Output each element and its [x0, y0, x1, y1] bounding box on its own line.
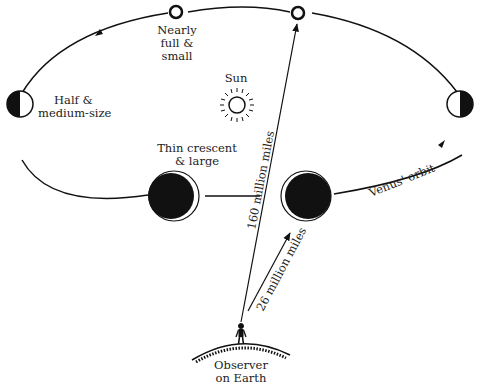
label-half: medium-size [38, 106, 112, 120]
phase-crescent-right-icon [281, 171, 331, 221]
label-crescent: & large [175, 154, 219, 168]
phase-half-right-icon [447, 91, 473, 117]
label-half: Half & [54, 93, 93, 107]
label-observer: on Earth [216, 371, 267, 385]
observer-icon [236, 324, 246, 345]
phase-half-left-icon [7, 91, 33, 117]
venus-phases-diagram: Nearly full & small Sun Half & medium-si… [0, 0, 477, 388]
sun-icon [220, 88, 254, 122]
label-venus-orbit: Venus' orbit [366, 161, 437, 201]
label-nearly-full: Nearly [157, 23, 197, 37]
phase-full-far-icon [292, 7, 304, 19]
label-observer: Observer [214, 358, 268, 372]
phase-nearly-full-left-icon [170, 6, 182, 18]
label-distance-160: 160 million miles [244, 129, 277, 230]
label-nearly-full: small [161, 49, 192, 63]
label-distance-26: 26 million miles [253, 225, 309, 314]
phase-crescent-left-icon [148, 171, 199, 221]
label-crescent: Thin crescent [157, 141, 237, 155]
label-nearly-full: full & [161, 36, 194, 50]
orbit-arrow-icon [438, 140, 445, 148]
label-sun: Sun [225, 71, 248, 85]
